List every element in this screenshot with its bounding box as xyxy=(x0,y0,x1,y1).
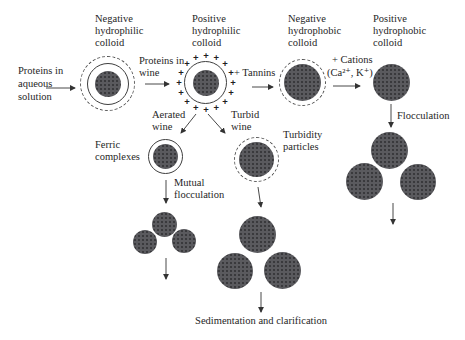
left-cluster-right-particle xyxy=(172,229,196,253)
left-cluster-left-particle xyxy=(133,230,157,254)
arrow-turbidity-down xyxy=(258,187,261,207)
label-mutual-flocculation: Mutual flocculation xyxy=(174,177,224,201)
center-cluster-left-particle xyxy=(217,253,253,289)
negative-hydrophobic-core xyxy=(284,64,321,101)
label-sedimentation-and-clarification: Sedimentation and clarification xyxy=(150,315,372,327)
label-negative-hydrophobic-colloid: Negative hydrophobic colloid xyxy=(288,13,341,49)
turbidity-particles-core xyxy=(239,142,274,177)
ferric-complexes-graphic xyxy=(148,139,183,174)
arrow-turbid-wine xyxy=(208,114,225,133)
label-flocculation: Flocculation xyxy=(397,110,450,122)
ferric-complexes-core xyxy=(153,144,178,169)
negative-hydrophilic-core xyxy=(95,71,121,97)
negative-hydrophilic-colloid-graphic xyxy=(80,56,135,111)
negative-hydrophilic-inner-ring xyxy=(87,63,129,105)
center-cluster-right-particle xyxy=(264,252,301,289)
label-tannins: + Tannins xyxy=(234,67,275,79)
label-ferric-complexes: Ferric complexes xyxy=(95,139,140,163)
positive-hydrophobic-colloid-graphic xyxy=(373,64,410,101)
label-proteins-in-aqueous-solution: Proteins in aqueous solution xyxy=(18,64,63,103)
positive-hydrophilic-colloid-graphic: ++++++++++++++++ xyxy=(175,52,237,114)
label-cations-line1: + Cations xyxy=(332,54,373,66)
label-positive-hydrophobic-colloid: Positive hydrophobic colloid xyxy=(373,13,426,49)
label-negative-hydrophilic-colloid: Negative hydrophilic colloid xyxy=(95,13,143,49)
label-cations-line2: (Ca²⁺, K⁺) xyxy=(327,67,373,79)
negative-hydrophobic-colloid-graphic xyxy=(279,59,326,106)
right-cluster-right-particle xyxy=(400,164,436,200)
right-cluster-left-particle xyxy=(346,163,383,200)
label-positive-hydrophilic-colloid: Positive hydrophilic colloid xyxy=(192,13,240,49)
turbidity-particles-graphic xyxy=(234,137,279,182)
positive-hydrophilic-core xyxy=(193,70,219,96)
center-cluster-top-particle xyxy=(239,216,276,253)
arrow-layer xyxy=(0,0,465,340)
label-turbidity-particles: Turbidity particles xyxy=(283,129,322,153)
diagram-canvas: Negative hydrophilic colloid Positive hy… xyxy=(0,0,465,340)
right-cluster-top-particle xyxy=(371,132,408,169)
